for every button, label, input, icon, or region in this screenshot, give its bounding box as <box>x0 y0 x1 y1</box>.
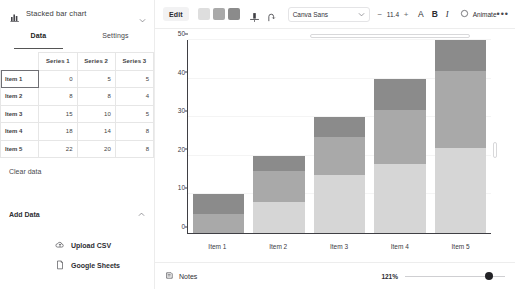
cell-item5-series2[interactable]: 20 <box>77 140 115 158</box>
table-row[interactable]: Item 3 15 10 5 <box>1 105 154 123</box>
curve-text-icon[interactable] <box>267 9 278 20</box>
italic-button[interactable]: I <box>446 9 449 19</box>
design-canvas[interactable]: 01020304050 Item 1 Item 2 Item 3 Item 4 … <box>155 29 515 262</box>
table-row[interactable]: Item 2 8 8 4 <box>1 88 154 106</box>
bar-segment-series-2[interactable] <box>374 110 426 164</box>
notes-button[interactable]: Notes <box>165 271 197 281</box>
canva-chart-editor: Stacked bar chart Data Settings Series 1… <box>0 0 515 289</box>
upload-csv-button[interactable]: Upload CSV <box>55 240 111 250</box>
text-color-icon[interactable]: A <box>418 9 424 19</box>
cell-item1-series3[interactable]: 5 <box>115 70 153 88</box>
bar-column[interactable] <box>314 40 366 233</box>
cell-item1-series2[interactable]: 5 <box>77 70 115 88</box>
bar-column[interactable] <box>374 40 426 233</box>
cell-item3-series1[interactable]: 15 <box>39 105 77 123</box>
bottom-status-bar: Notes 121% <box>155 262 515 289</box>
x-label-item-3: Item 3 <box>313 243 365 250</box>
bar-segment-series-1[interactable] <box>435 148 487 233</box>
bar-segment-series-2[interactable] <box>314 137 366 176</box>
table-row[interactable]: Item 1 0 5 5 <box>1 70 154 88</box>
color-swatch-light[interactable] <box>198 8 210 20</box>
selection-handle-right[interactable] <box>493 142 497 158</box>
add-data-section-header[interactable]: Add Data <box>0 211 154 218</box>
font-size-decrease-button[interactable]: − <box>377 10 383 19</box>
text-format-group: A B I <box>418 9 449 19</box>
row-header-item-5[interactable]: Item 5 <box>1 140 39 158</box>
edit-button[interactable]: Edit <box>163 7 189 21</box>
chart-type-label: Stacked bar chart <box>26 9 133 18</box>
bar-segment-series-3[interactable] <box>435 40 487 71</box>
tab-settings[interactable]: Settings <box>77 28 154 50</box>
bar-segment-series-3[interactable] <box>374 79 426 110</box>
chevron-down-icon[interactable] <box>358 11 365 18</box>
column-header-series-3[interactable]: Series 3 <box>115 53 153 71</box>
bar-column[interactable] <box>193 40 245 233</box>
clear-data-button[interactable]: Clear data <box>0 158 154 175</box>
bar-segment-series-2[interactable] <box>253 171 305 202</box>
row-header-item-4[interactable]: Item 4 <box>1 123 39 141</box>
cell-item3-series2[interactable]: 10 <box>77 105 115 123</box>
bold-button[interactable]: B <box>432 9 438 19</box>
row-header-item-1[interactable]: Item 1 <box>1 70 39 88</box>
table-row[interactable]: Item 4 18 14 8 <box>1 123 154 141</box>
x-label-item-5: Item 5 <box>435 243 487 250</box>
chevron-up-icon[interactable] <box>138 211 145 218</box>
cell-item4-series1[interactable]: 18 <box>39 123 77 141</box>
cell-item4-series2[interactable]: 14 <box>77 123 115 141</box>
bar-column[interactable] <box>435 40 487 233</box>
y-axis-tick: 10 <box>178 184 185 191</box>
row-header-item-3[interactable]: Item 3 <box>1 105 39 123</box>
cell-item1-series1[interactable]: 0 <box>39 70 77 88</box>
bar-group <box>188 40 491 233</box>
table-corner-cell <box>1 53 39 71</box>
chart-type-selector[interactable]: Stacked bar chart <box>0 0 154 26</box>
zoom-slider[interactable] <box>405 272 505 281</box>
google-sheets-button[interactable]: Google Sheets <box>55 260 120 270</box>
bar-segment-series-3[interactable] <box>253 156 305 171</box>
cell-item2-series2[interactable]: 8 <box>77 88 115 106</box>
font-size-stepper: − 11.4 + <box>377 10 409 19</box>
chevron-down-icon[interactable] <box>139 10 146 17</box>
font-size-value[interactable]: 11.4 <box>387 11 399 18</box>
y-axis-tick: 50 <box>178 30 185 37</box>
cell-item3-series3[interactable]: 5 <box>115 105 153 123</box>
more-options-button[interactable]: ••• <box>497 9 509 19</box>
bar-segment-series-1[interactable] <box>253 202 305 233</box>
bar-segment-series-1[interactable] <box>374 164 426 233</box>
font-size-increase-button[interactable]: + <box>403 10 409 19</box>
cell-item4-series3[interactable]: 8 <box>115 123 153 141</box>
x-label-item-4: Item 4 <box>374 243 426 250</box>
zoom-slider-knob[interactable] <box>485 272 493 280</box>
row-header-item-2[interactable]: Item 2 <box>1 88 39 106</box>
x-label-item-2: Item 2 <box>252 243 304 250</box>
column-header-series-2[interactable]: Series 2 <box>77 53 115 71</box>
animate-circle-icon <box>460 9 469 19</box>
zoom-control: 121% <box>381 272 505 281</box>
upload-csv-label: Upload CSV <box>71 242 111 249</box>
color-swatch-dark[interactable] <box>228 8 240 20</box>
cell-item2-series3[interactable]: 4 <box>115 88 153 106</box>
cell-item5-series3[interactable]: 8 <box>115 140 153 158</box>
bar-segment-series-3[interactable] <box>314 117 366 136</box>
bar-segment-series-2[interactable] <box>435 71 487 148</box>
bar-segment-series-1[interactable] <box>314 175 366 233</box>
bar-segment-series-3[interactable] <box>193 194 245 213</box>
color-swatch-medium[interactable] <box>213 8 225 20</box>
cell-item2-series1[interactable]: 8 <box>39 88 77 106</box>
bar-column[interactable] <box>253 40 305 233</box>
table-row[interactable]: Item 5 22 20 8 <box>1 140 154 158</box>
bar-segment-series-2[interactable] <box>193 214 245 233</box>
cell-item5-series1[interactable]: 22 <box>39 140 77 158</box>
cloud-upload-icon <box>55 240 65 250</box>
document-icon <box>55 260 65 270</box>
selection-handle-top[interactable] <box>310 34 470 38</box>
data-table[interactable]: Series 1 Series 2 Series 3 Item 1 0 5 5 … <box>0 52 154 158</box>
tab-data[interactable]: Data <box>0 28 77 50</box>
font-family-select[interactable]: Canva Sans <box>288 7 370 22</box>
panel-tabs: Data Settings <box>0 28 154 50</box>
chart-element[interactable]: 01020304050 Item 1 Item 2 Item 3 Item 4 … <box>165 34 495 256</box>
font-family-value: Canva Sans <box>293 11 328 18</box>
animate-button[interactable]: Animate <box>460 9 497 19</box>
column-header-series-1[interactable]: Series 1 <box>39 53 77 71</box>
position-align-icon[interactable] <box>249 9 260 20</box>
